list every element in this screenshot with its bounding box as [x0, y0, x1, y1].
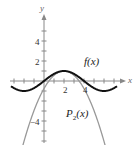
- y-axis-label: y: [40, 4, 44, 13]
- x-tick-label-2: 2: [63, 86, 68, 95]
- y-axis-arrow-icon: [42, 14, 47, 20]
- p2-label-arg: (x): [76, 107, 88, 119]
- x-tick-label-4: 4: [83, 86, 88, 95]
- p2-label-main: P: [66, 107, 73, 119]
- f-curve-label: f(x): [84, 56, 99, 67]
- p2-curve-label: P2(x): [66, 108, 88, 122]
- x-axis-arrow-icon: [120, 79, 126, 84]
- y-tick-label-2: 2: [35, 58, 40, 67]
- x-axis-label: x: [128, 76, 132, 85]
- y-tick-label-4: 4: [35, 38, 40, 47]
- y-tick-label-neg4: −4: [30, 118, 40, 127]
- plot-area: [0, 0, 136, 145]
